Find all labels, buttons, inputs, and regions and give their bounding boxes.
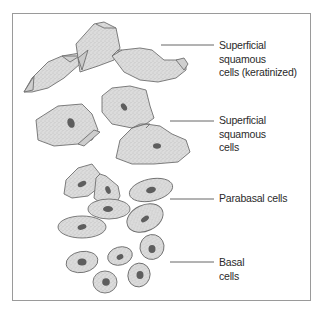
parabasal-cells-group (58, 164, 175, 238)
label-parabasal-cells: Parabasal cells (219, 192, 287, 206)
label-keratinized-cells: Superficial squamous cells (keratinized) (219, 39, 297, 80)
label-line: cells (219, 141, 266, 155)
label-line: Superficial (219, 114, 266, 128)
nucleus (102, 278, 110, 286)
label-line: Parabasal cells (219, 192, 287, 206)
keratinized-cell-right (112, 48, 186, 82)
keratinized-cells-group (24, 22, 188, 92)
superficial-cell-3 (116, 124, 190, 164)
label-line: Basal (219, 256, 244, 270)
label-line: cells (keratinized) (219, 66, 297, 80)
nucleus (153, 143, 161, 149)
label-basal-cells: Basal cells (219, 256, 244, 283)
superficial-cell-2 (102, 86, 154, 128)
label-line: Superficial (219, 39, 297, 53)
nucleus (78, 259, 87, 266)
nucleus (149, 245, 156, 253)
label-superficial-cells: Superficial squamous cells (219, 114, 266, 155)
superficial-cells-group (36, 86, 190, 164)
nucleus (137, 271, 144, 279)
label-line: squamous (219, 53, 297, 67)
label-line: cells (219, 270, 244, 284)
nucleus (103, 206, 113, 212)
basal-cells-group (64, 232, 166, 293)
label-line: squamous (219, 128, 266, 142)
